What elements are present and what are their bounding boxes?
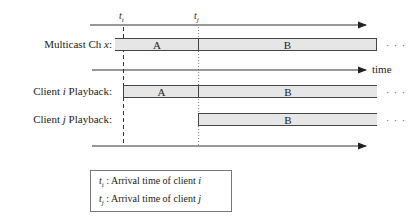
ellipsis: · · · bbox=[386, 87, 406, 98]
segment-b: B bbox=[198, 85, 377, 98]
marker-ti: ti bbox=[119, 10, 124, 24]
legend-item-ti: ti : Arrival time of client i bbox=[99, 174, 223, 192]
row-label-multicast: Multicast Ch x: bbox=[0, 38, 112, 50]
segment-b: B bbox=[198, 38, 377, 51]
marker-tj: tj bbox=[194, 10, 199, 24]
ellipsis: · · · bbox=[386, 115, 406, 126]
segment-b: B bbox=[198, 113, 377, 126]
segment-a: A bbox=[123, 85, 199, 98]
axis-label-time: time bbox=[372, 63, 392, 75]
legend-item-tj: tj : Arrival time of client j bbox=[99, 192, 223, 210]
row-label-client-i: Client i Playback: bbox=[0, 85, 112, 97]
segment-a: A bbox=[115, 38, 199, 51]
row-label-client-j: Client j Playback: bbox=[0, 113, 112, 125]
ellipsis: · · · bbox=[386, 40, 406, 51]
legend: ti : Arrival time of client i tj : Arriv… bbox=[90, 170, 232, 212]
